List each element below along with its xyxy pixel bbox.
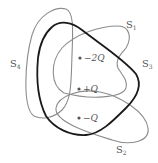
charge-label-minus-2q: −2Q xyxy=(84,53,105,63)
label-s1: S1 xyxy=(126,19,137,31)
charge-dot-minus-q xyxy=(77,116,80,119)
charge-label-minus-q: −Q xyxy=(83,113,99,123)
label-s4: S4 xyxy=(10,58,21,70)
label-s3: S3 xyxy=(142,58,153,70)
charge-dot-minus-2q xyxy=(78,56,81,59)
charge-label-plus-q: +Q xyxy=(83,84,99,94)
label-s2: S2 xyxy=(116,144,127,156)
surface-s4 xyxy=(26,8,73,118)
gauss-surfaces-diagram: S1 S3 S4 S2 −2Q +Q −Q xyxy=(0,0,158,163)
charge-dot-plus-q xyxy=(77,87,80,90)
